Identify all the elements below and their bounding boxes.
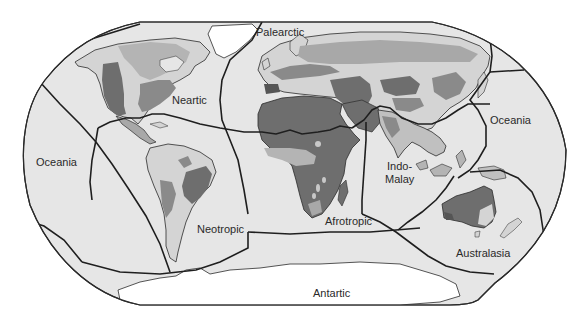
label-antarctic: Antartic (313, 287, 351, 299)
label-neotropic: Neotropic (197, 223, 245, 235)
label-australasia: Australasia (456, 247, 511, 259)
label-oceania-east: Oceania (490, 114, 532, 126)
world-map-svg: Palearctic Neartic Oceania Oceania Neotr… (0, 0, 581, 325)
label-indo-malay-1: Indo- (387, 160, 412, 172)
label-afrotropic: Afrotropic (325, 215, 373, 227)
label-palearctic: Palearctic (256, 26, 305, 38)
biogeographic-realms-map: Palearctic Neartic Oceania Oceania Neotr… (0, 0, 581, 325)
label-indo-malay-2: Malay (385, 173, 415, 185)
label-oceania-west: Oceania (36, 156, 78, 168)
label-nearctic: Neartic (172, 94, 207, 106)
